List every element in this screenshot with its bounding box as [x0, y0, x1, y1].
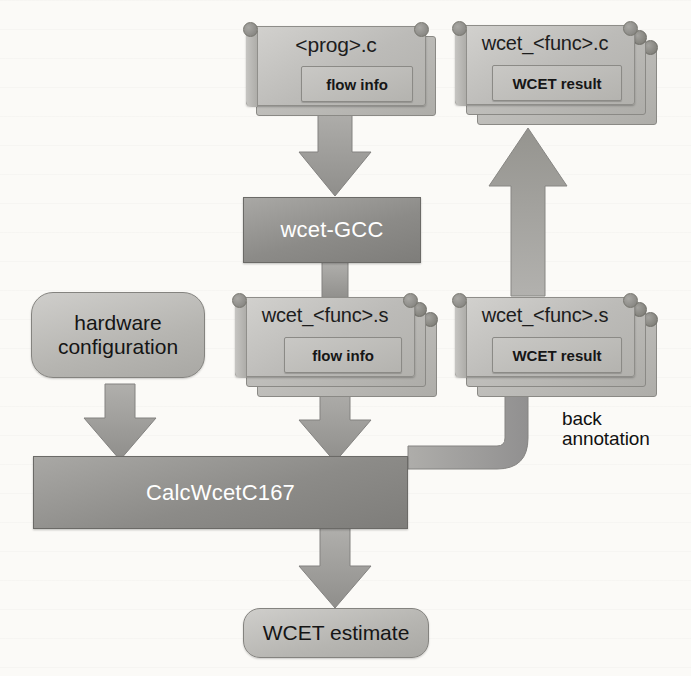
node-wcet-estimate[interactable]: WCET estimate	[243, 608, 429, 658]
edge-hw-to-calc	[84, 384, 156, 460]
back-annotation-line2: annotation	[562, 429, 650, 449]
wcet-func-c-title: wcet_<func>.c	[456, 32, 634, 55]
diagram-canvas: <prog>.c flow info wcet_<func>.c WCET re…	[0, 0, 691, 676]
wcet-func-c-card[interactable]: wcet_<func>.c WCET result	[455, 25, 635, 105]
node-calc-wcet-c167[interactable]: CalcWcetC167	[33, 456, 408, 529]
wcet-func-s-left-card[interactable]: wcet_<func>.s flow info	[235, 297, 415, 377]
wcet-func-c-inner-box: WCET result	[492, 65, 622, 101]
node-wcet-func-s-left[interactable]: wcet_<func>.s flow info	[235, 297, 435, 387]
node-wcet-gcc[interactable]: wcet-GCC	[243, 197, 421, 263]
edge-prog-to-gcc	[299, 108, 371, 196]
wcet-func-s-right-inner-box: WCET result	[492, 337, 622, 373]
hardware-configuration-line2: configuration	[58, 335, 178, 359]
node-wcet-func-c[interactable]: wcet_<func>.c WCET result	[455, 25, 655, 115]
label-back-annotation: back annotation	[562, 409, 650, 449]
edge-asm-to-calc	[299, 386, 371, 462]
wcet-func-s-right-title: wcet_<func>.s	[456, 304, 634, 327]
wcet-gcc-label: wcet-GCC	[280, 217, 383, 243]
calc-wcet-c167-label: CalcWcetC167	[146, 480, 295, 506]
wcet-func-s-left-inner-box: flow info	[284, 337, 402, 373]
prog-c-card[interactable]: <prog>.c flow info	[246, 26, 426, 106]
node-hardware-configuration[interactable]: hardware configuration	[31, 292, 205, 378]
prog-c-inner-box: flow info	[301, 66, 413, 102]
back-annotation-line1: back	[562, 409, 650, 429]
prog-c-title: <prog>.c	[247, 33, 425, 57]
node-wcet-func-s-right[interactable]: wcet_<func>.s WCET result	[455, 297, 655, 387]
hardware-configuration-line1: hardware	[74, 311, 162, 335]
edge-calc-to-estimate	[299, 528, 371, 608]
edge-gcc-to-asm	[322, 262, 348, 300]
wcet-func-s-right-card[interactable]: wcet_<func>.s WCET result	[455, 297, 635, 377]
wcet-estimate-label: WCET estimate	[263, 621, 410, 645]
node-prog-c[interactable]: <prog>.c flow info	[246, 26, 424, 108]
wcet-func-s-left-title: wcet_<func>.s	[236, 304, 414, 327]
edge-asm-result-to-c-result	[489, 128, 567, 296]
